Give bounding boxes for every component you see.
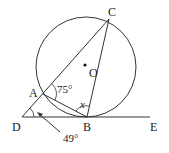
arrow-49	[38, 113, 60, 132]
label-angle-75: 75°	[57, 83, 72, 95]
angle-arc-49	[30, 108, 34, 117]
circle-o	[36, 17, 136, 117]
label-angle-x: x	[79, 98, 85, 110]
label-c: C	[108, 5, 116, 19]
center-point	[83, 63, 86, 66]
label-e: E	[150, 120, 157, 134]
label-d: D	[12, 120, 21, 134]
geometry-diagram: C O A D B E 75° x 49°	[0, 0, 169, 153]
label-a: A	[29, 86, 38, 100]
label-o: O	[89, 66, 98, 80]
label-angle-49: 49°	[63, 132, 78, 144]
angle-arc-75	[52, 84, 57, 100]
label-b: B	[83, 120, 91, 134]
